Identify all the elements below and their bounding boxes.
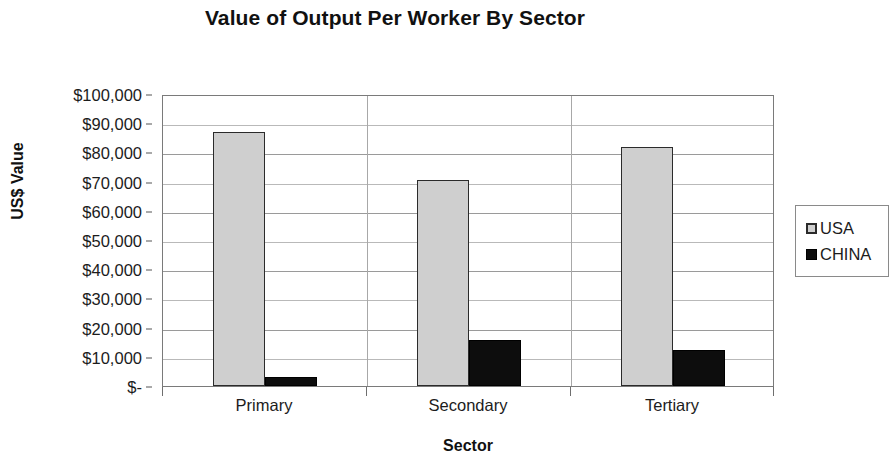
bar-usa-tertiary xyxy=(621,147,673,386)
y-axis-tick-label: $10,000 xyxy=(82,348,142,367)
chart-title: Value of Output Per Worker By Sector xyxy=(0,6,790,30)
x-axis-tick-mark xyxy=(570,387,571,396)
legend-item-usa: USA xyxy=(806,215,882,241)
y-axis-tick-label: $- xyxy=(127,378,142,397)
y-axis-tick-mark xyxy=(146,182,152,183)
y-axis: $100,000$90,000$80,000$70,000$60,000$50,… xyxy=(40,95,152,387)
y-axis-tick-label: $50,000 xyxy=(82,232,142,251)
x-axis-ticks xyxy=(162,387,774,396)
y-axis-tick-mark xyxy=(146,357,152,358)
y-axis-tick-label: $100,000 xyxy=(73,86,142,105)
y-axis-tick-label: $40,000 xyxy=(82,261,142,280)
y-axis-title: US$ Value xyxy=(9,111,27,251)
x-axis-label-tertiary: Tertiary xyxy=(570,396,774,415)
y-axis-tick-mark xyxy=(146,95,152,96)
category-separator xyxy=(367,96,368,386)
y-axis-tick-mark xyxy=(146,241,152,242)
y-axis-tick-mark xyxy=(146,153,152,154)
y-axis-tick-label: $90,000 xyxy=(82,115,142,134)
y-axis-tick-label: $60,000 xyxy=(82,202,142,221)
legend-swatch-china-icon xyxy=(806,249,817,260)
x-axis-tick-mark xyxy=(366,387,367,396)
bar-china-tertiary xyxy=(673,350,725,386)
y-axis-tick-mark xyxy=(146,270,152,271)
y-axis-tick-mark xyxy=(146,299,152,300)
y-axis-tick-label: $70,000 xyxy=(82,173,142,192)
y-axis-tick-mark xyxy=(146,387,152,388)
legend-swatch-usa-icon xyxy=(806,223,817,234)
y-axis-tick-label: $20,000 xyxy=(82,319,142,338)
x-axis-tick-mark xyxy=(162,387,163,396)
x-axis-title: Sector xyxy=(162,437,774,455)
bar-usa-primary xyxy=(213,132,265,386)
bar-china-secondary xyxy=(469,340,521,386)
y-axis-tick-label: $80,000 xyxy=(82,144,142,163)
y-axis-tick-mark xyxy=(146,124,152,125)
bars-layer xyxy=(163,96,773,386)
category-separator xyxy=(571,96,572,386)
legend-item-china: CHINA xyxy=(806,241,882,267)
legend-label: CHINA xyxy=(820,245,871,264)
bar-china-primary xyxy=(265,377,317,386)
x-axis-label-primary: Primary xyxy=(162,396,366,415)
legend-label: USA xyxy=(820,219,854,238)
y-axis-tick-mark xyxy=(146,328,152,329)
y-axis-tick-label: $30,000 xyxy=(82,290,142,309)
plot-area xyxy=(162,95,774,387)
x-axis-labels: PrimarySecondaryTertiary xyxy=(162,396,774,424)
x-axis-label-secondary: Secondary xyxy=(366,396,570,415)
y-axis-tick-mark xyxy=(146,211,152,212)
chart-legend: USACHINA xyxy=(795,205,889,277)
bar-usa-secondary xyxy=(417,180,469,386)
x-axis-tick-mark xyxy=(773,387,774,396)
